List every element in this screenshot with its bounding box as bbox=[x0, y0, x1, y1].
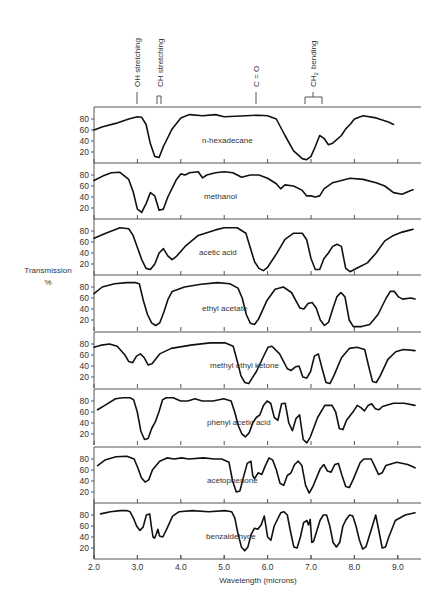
y-tick-label: 80 bbox=[80, 396, 90, 406]
spectrum-panel: 80604020n-hexadecane bbox=[80, 107, 421, 163]
y-tick-label: 40 bbox=[80, 304, 90, 314]
annotation-ch2-marker bbox=[305, 92, 322, 104]
annotation-oh-stretching: OH stretching bbox=[133, 38, 142, 87]
y-tick-label: 60 bbox=[80, 465, 90, 475]
y-tick-label: 60 bbox=[80, 237, 90, 247]
compound-label: acetic acid bbox=[199, 248, 237, 257]
y-tick-label: 60 bbox=[80, 407, 90, 417]
compound-label: acetophenone bbox=[207, 476, 258, 485]
x-axis-label: Wavelength (microns) bbox=[219, 576, 297, 585]
y-tick-label: 20 bbox=[80, 315, 90, 325]
spectrum-panel: 80604020benzaldehyde bbox=[80, 503, 421, 559]
y-tick-label: 80 bbox=[80, 282, 90, 292]
y-tick-label: 20 bbox=[80, 543, 90, 553]
y-tick-label: 60 bbox=[80, 521, 90, 531]
spectrum-curve bbox=[101, 511, 415, 551]
y-tick-label: 40 bbox=[80, 532, 90, 542]
y-tick-label: 40 bbox=[80, 248, 90, 258]
x-tick-label: 4.0 bbox=[175, 562, 187, 572]
y-tick-label: 80 bbox=[80, 339, 90, 349]
spectra-panels: 80604020n-hexadecane80604020methanol8060… bbox=[80, 107, 421, 559]
annotation-ch2-bending: CH2bending bbox=[309, 41, 319, 87]
compound-label: methanol bbox=[204, 192, 237, 201]
x-tick-label: 8.0 bbox=[348, 562, 360, 572]
y-tick-label: 60 bbox=[80, 350, 90, 360]
spectrum-panel: 80604020methanol bbox=[80, 163, 421, 219]
x-tick-label: 6.0 bbox=[262, 562, 274, 572]
svg-text:CH2bending: CH2bending bbox=[309, 41, 319, 87]
y-tick-label: 80 bbox=[80, 226, 90, 236]
y-tick-label: 40 bbox=[80, 418, 90, 428]
compound-label: benzaldehyde bbox=[206, 532, 256, 541]
y-tick-label: 40 bbox=[80, 136, 90, 146]
compound-label: methyl ethyl ketone bbox=[210, 361, 279, 370]
spectrum-panel: 80604020ethyl acetate bbox=[80, 275, 421, 331]
y-tick-label: 80 bbox=[80, 454, 90, 464]
y-tick-label: 60 bbox=[80, 181, 90, 191]
y-tick-label: 40 bbox=[80, 361, 90, 371]
spectrum-panel: 80604020methyl ethyl ketone bbox=[80, 332, 421, 388]
annotation-co: C = O bbox=[252, 66, 261, 87]
y-tick-label: 20 bbox=[80, 259, 90, 269]
y-tick-label: 80 bbox=[80, 114, 90, 124]
spectrum-panel: 80604020acetic acid bbox=[80, 219, 421, 275]
y-tick-label: 60 bbox=[80, 293, 90, 303]
y-tick-label: 20 bbox=[80, 372, 90, 382]
y-axis-unit: % bbox=[44, 278, 51, 287]
x-tick-label: 7.0 bbox=[305, 562, 317, 572]
spectrum-panel: 80604020phenyl acetic acid bbox=[80, 389, 421, 445]
x-tick-label: 9.0 bbox=[392, 562, 404, 572]
y-tick-label: 20 bbox=[80, 487, 90, 497]
y-tick-label: 80 bbox=[80, 170, 90, 180]
y-tick-label: 20 bbox=[80, 203, 90, 213]
spectrum-curve bbox=[94, 283, 415, 327]
y-axis-label: Transmission bbox=[24, 266, 71, 275]
compound-label: n-hexadecane bbox=[202, 136, 253, 145]
y-tick-label: 20 bbox=[80, 147, 90, 157]
annotation-ch-marker bbox=[157, 96, 161, 104]
y-tick-label: 20 bbox=[80, 429, 90, 439]
compound-label: phenyl acetic acid bbox=[207, 418, 271, 427]
annotation-ch-stretching: CH stretching bbox=[156, 39, 165, 87]
band-annotations: OH stretching CH stretching C = O CH2ben… bbox=[133, 38, 322, 104]
spectrum-curve bbox=[98, 456, 415, 493]
compound-label: ethyl acetate bbox=[202, 304, 248, 313]
spectrum-curve bbox=[94, 228, 413, 272]
y-tick-label: 80 bbox=[80, 510, 90, 520]
x-tick-label: 3.0 bbox=[131, 562, 143, 572]
y-tick-label: 40 bbox=[80, 192, 90, 202]
spectrum-panel: 80604020acetophenone bbox=[80, 447, 421, 503]
y-tick-label: 40 bbox=[80, 476, 90, 486]
ir-spectra-chart: OH stretching CH stretching C = O CH2ben… bbox=[0, 0, 441, 604]
x-tick-label: 2.0 bbox=[88, 562, 100, 572]
y-tick-label: 60 bbox=[80, 125, 90, 135]
x-tick-label: 5.0 bbox=[218, 562, 230, 572]
spectrum-curve bbox=[94, 172, 413, 213]
